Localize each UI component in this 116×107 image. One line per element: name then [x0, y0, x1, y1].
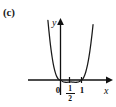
y-axis-label: y — [52, 18, 56, 28]
part-label: (c) — [3, 7, 15, 18]
x-axis-label: x — [104, 86, 108, 96]
y-axis-arrowhead — [57, 18, 64, 25]
tick-label-zero: 0 — [54, 86, 62, 95]
tick-label-one: 1 — [78, 86, 86, 95]
tick-label-one-half: 1 2 — [64, 85, 76, 103]
function-curve — [48, 20, 93, 82]
x-axis-arrowhead — [106, 77, 113, 84]
fraction-denominator: 2 — [64, 94, 76, 102]
fraction-numerator: 1 — [64, 85, 76, 93]
figure-panel: (c) y x 0 1 2 1 — [0, 0, 116, 107]
